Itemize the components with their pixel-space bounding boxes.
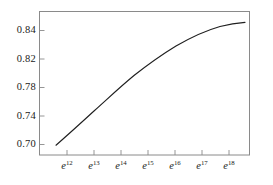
y-tick-label-0: 0.84 <box>6 25 36 36</box>
x-tick-label-1: e13 <box>82 161 106 172</box>
y-tick-label-1: 0.82 <box>6 54 36 65</box>
x-tick-exponent-6: 18 <box>228 159 235 166</box>
x-tick-label-0: e12 <box>55 161 79 172</box>
x-tick-exponent-4: 16 <box>174 159 181 166</box>
x-tick-label-3: e15 <box>136 161 160 172</box>
x-tick-exponent-1: 13 <box>93 159 100 166</box>
x-tick-label-4: e16 <box>163 161 187 172</box>
x-tick-exponent-0: 12 <box>66 159 73 166</box>
x-tick-exponent-3: 15 <box>147 159 154 166</box>
chart-figure: 0.84 0.82 0.78 0.74 0.70 e12 e13 e14 e15… <box>0 0 273 185</box>
x-tick-exponent-5: 17 <box>201 159 208 166</box>
x-tick-label-6: e18 <box>217 161 241 172</box>
x-tick-label-5: e17 <box>190 161 214 172</box>
plot-area <box>0 0 273 185</box>
y-tick-label-3: 0.74 <box>6 111 36 122</box>
x-tick-label-2: e14 <box>109 161 133 172</box>
y-tick-label-2: 0.78 <box>6 82 36 93</box>
y-tick-label-4: 0.70 <box>6 139 36 150</box>
x-tick-exponent-2: 14 <box>120 159 127 166</box>
plot-frame <box>40 12 250 156</box>
